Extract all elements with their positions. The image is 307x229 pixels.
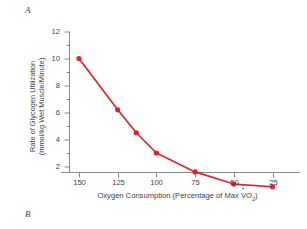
x-axis-title-prefix: Oxygen Consumption (Percentage of Max (97, 191, 241, 200)
y-tick-label-2: 2 (46, 162, 60, 171)
x-tick-label-50: 50 (223, 178, 247, 187)
v-letter: V (241, 191, 246, 200)
x-tick-label-125: 125 (107, 178, 131, 187)
x-tick-label-150: 150 (68, 178, 92, 187)
data-point (76, 56, 81, 61)
data-point (154, 150, 159, 155)
data-point (115, 107, 120, 112)
x-axis-title: Oxygen Consumption (Percentage of Max VO… (55, 191, 300, 202)
vo2-symbol: V (241, 191, 246, 200)
data-series-line (79, 59, 273, 187)
x-axis-major-ticks (80, 173, 274, 178)
x-tick-label-100: 100 (145, 178, 169, 187)
figure-panel-a: A B Rate of Glycogen Utilization (mmol/k… (0, 0, 307, 229)
data-point (193, 169, 198, 174)
data-series-markers (76, 56, 275, 189)
chart-axes (61, 32, 300, 173)
y-tick-label-6: 6 (46, 108, 60, 117)
y-axis-title-line1: Rate of Glycogen Utilization (28, 31, 37, 181)
y-axis-title: Rate of Glycogen Utilization (mmol/kg We… (28, 31, 47, 181)
x-tick-label-75: 75 (184, 178, 208, 187)
line-chart: Rate of Glycogen Utilization (mmol/kg We… (0, 0, 307, 229)
y-tick-label-4: 4 (46, 135, 60, 144)
v-dot-icon (243, 188, 245, 190)
y-tick-label-8: 8 (46, 81, 60, 90)
x-tick-label-25: 25 (262, 178, 286, 187)
x-axis-title-suffix: ) (255, 191, 258, 200)
y-tick-label-12: 12 (46, 27, 60, 36)
y-tick-label-10: 10 (46, 54, 60, 63)
data-point (134, 130, 139, 135)
y-axis-title-line2: (mmol/kg Wet Muscle/Minute) (37, 31, 46, 181)
